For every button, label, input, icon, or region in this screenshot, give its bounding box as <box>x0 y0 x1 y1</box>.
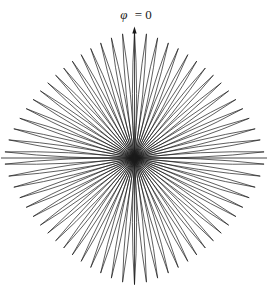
phi-label-rest: = 0 <box>135 7 152 22</box>
lobe-petal <box>135 43 169 158</box>
lobe-petal <box>135 158 169 273</box>
lobe-petal <box>26 109 134 158</box>
lobe-petal <box>135 99 236 158</box>
lobe-petal <box>33 99 134 158</box>
lobe-petal <box>26 158 134 207</box>
phi-axis-label: φ = 0 <box>120 7 152 22</box>
lobe-petal <box>33 158 134 217</box>
lobe-petal <box>135 109 243 158</box>
lobe-petal <box>135 158 243 207</box>
lobe-petal <box>101 43 135 158</box>
phi-axis-arrowhead-icon <box>132 27 136 34</box>
lobe-petal <box>135 158 236 217</box>
phi-symbol: φ <box>120 7 127 22</box>
pattern-svg: φ = 0 <box>0 0 269 289</box>
lobe-petal <box>101 158 135 273</box>
polar-pattern-figure: φ = 0 <box>0 0 269 289</box>
